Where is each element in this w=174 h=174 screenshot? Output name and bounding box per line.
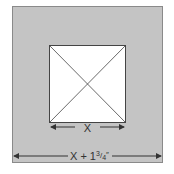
frame-diagram: X X + 13/4″ <box>0 0 174 174</box>
inner-square <box>50 46 126 123</box>
outer-dimension-main: X + 1 <box>70 150 96 162</box>
inch-mark: ″ <box>106 150 109 159</box>
inner-dimension-label: X <box>84 122 92 134</box>
